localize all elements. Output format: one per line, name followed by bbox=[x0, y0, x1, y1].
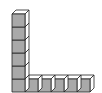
cube-l-shape-diagram bbox=[0, 0, 102, 93]
cube bbox=[12, 10, 29, 27]
